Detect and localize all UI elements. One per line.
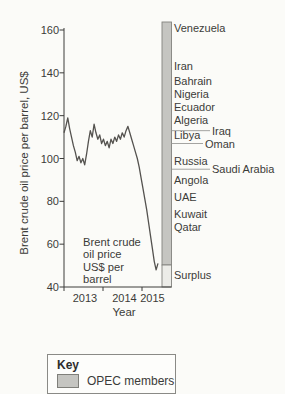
opec-country-label: Nigeria: [174, 88, 209, 100]
opec-country-label: Iran: [174, 60, 193, 72]
y-tick-label: 60: [25, 238, 59, 250]
opec-country-label: Qatar: [174, 221, 202, 233]
opec-country-label: Russia: [174, 155, 208, 167]
opec-country-label: Oman: [205, 138, 235, 150]
surplus-label: Surplus: [174, 269, 211, 281]
price-line-annotation: Brent crude oil price US$ per barrel: [83, 236, 141, 286]
legend-row: OPEC members: [57, 374, 175, 388]
opec-country-label: Libya: [174, 129, 200, 141]
x-tick-label: 2015: [133, 292, 173, 304]
legend-title: Key: [57, 358, 175, 372]
opec-country-label: Kuwait: [174, 208, 207, 220]
x-axis-title: Year: [94, 306, 154, 318]
legend-box: Key OPEC members: [47, 354, 176, 394]
y-tick-label: 80: [25, 195, 59, 207]
opec-country-label: Iraq: [212, 125, 231, 137]
legend-item-label: OPEC members: [87, 374, 174, 388]
opec-members-swatch: [57, 374, 79, 388]
y-tick-label: 140: [25, 67, 59, 79]
opec-country-label: Saudi Arabia: [212, 163, 274, 175]
opec-members-bar: [162, 22, 172, 265]
opec-country-label: Algeria: [174, 114, 208, 126]
chart-canvas: Brent crude oil price per barrel, US$ Ye…: [0, 0, 285, 394]
opec-country-label: Ecuador: [174, 101, 215, 113]
opec-country-label: Bahrain: [174, 75, 212, 87]
y-tick-label: 40: [25, 281, 59, 293]
y-tick-label: 120: [25, 110, 59, 122]
y-tick-label: 100: [25, 153, 59, 165]
x-tick-label: 2013: [65, 292, 105, 304]
opec-country-label: Venezuela: [174, 22, 225, 34]
surplus-segment: [162, 265, 172, 287]
opec-country-label: UAE: [174, 191, 197, 203]
y-tick-label: 160: [25, 24, 59, 36]
opec-country-label: Angola: [174, 174, 208, 186]
